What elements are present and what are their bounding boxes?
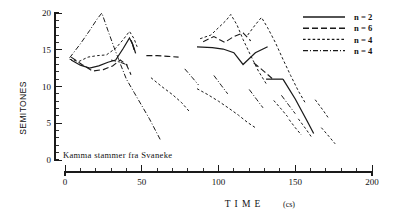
legend-label: n = 2: [354, 12, 372, 22]
x-axis-title: T I M E: [225, 199, 261, 209]
series-segment: [214, 75, 228, 93]
legend-label: n = 4: [354, 46, 373, 56]
series-segment: [197, 47, 268, 65]
chart-legend[interactable]: n = 2n = 6n = 4n = 4: [303, 12, 373, 56]
y-tick-label: 0: [47, 155, 52, 165]
series-segment: [283, 79, 314, 133]
series-segment: [70, 31, 138, 61]
x-tick-label: 150: [289, 177, 303, 187]
series-segment: [321, 128, 335, 144]
legend-item[interactable]: n = 4: [303, 35, 373, 45]
legend-label: n = 4: [354, 35, 373, 45]
y-tick-label: 20: [42, 8, 52, 18]
series-segment: [248, 17, 306, 104]
series-segment: [274, 100, 288, 116]
intonation-line-chart: 05101520050100150200 n = 2n = 6n = 4n = …: [0, 0, 398, 223]
x-tick-label: 0: [63, 177, 68, 187]
x-tick-label: 200: [365, 177, 379, 187]
data-series: [70, 13, 296, 139]
series-segment: [151, 78, 189, 112]
series-segment: [197, 89, 255, 128]
x-tick-label: 100: [212, 177, 226, 187]
series-segment: [70, 13, 161, 139]
chart-figure: 05101520050100150200 n = 2n = 6n = 4n = …: [0, 0, 398, 223]
series-segment: [200, 14, 266, 83]
series-segment: [254, 63, 274, 80]
legend-item[interactable]: n = 4: [303, 46, 373, 56]
series-segment: [298, 119, 312, 138]
y-tick-label: 10: [42, 82, 52, 92]
series-segment: [281, 95, 295, 113]
y-axis-title: SEMITONES: [18, 81, 28, 135]
data-series-group: [70, 13, 336, 144]
legend-item[interactable]: n = 6: [303, 23, 373, 33]
data-series: [71, 38, 314, 134]
series-segment: [185, 69, 199, 85]
y-tick-label: 5: [47, 118, 52, 128]
y-tick-label: 15: [42, 45, 52, 55]
series-segment: [315, 100, 329, 119]
x-tick-label: 50: [137, 177, 147, 187]
chart-annotation: Kamma stammer fra Svaneke: [63, 150, 172, 160]
x-axis-spine: [65, 172, 372, 176]
series-segment: [249, 89, 263, 107]
legend-item[interactable]: n = 2: [303, 12, 372, 22]
series-segment: [146, 56, 178, 57]
series-segment: [71, 57, 131, 75]
legend-label: n = 6: [354, 23, 373, 33]
series-segment: [289, 120, 301, 135]
x-axis-unit: (cs): [283, 200, 295, 209]
